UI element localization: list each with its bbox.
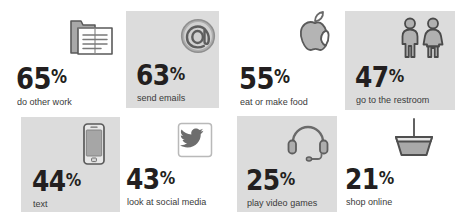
stat-cell-go-to-the-restroom: 47% go to the restroom	[345, 11, 455, 110]
stat-value: 47%	[355, 63, 404, 92]
stat-value: 43%	[126, 165, 175, 194]
stat-cell-eat-or-make-food: 55% eat or make food	[223, 8, 341, 110]
twitter-bird-icon	[174, 120, 216, 162]
stat-caption: eat or make food	[240, 97, 308, 107]
stat-caption: go to the restroom	[356, 95, 429, 105]
folder-document-icon	[68, 16, 118, 58]
infographic-stats-grid: 65% do other work 63% send emails	[0, 0, 460, 223]
stat-cell-look-at-social-media: 43% look at social media	[126, 117, 232, 212]
stat-value: 65%	[16, 64, 66, 94]
restroom-people-icon	[395, 16, 449, 62]
stat-caption: send emails	[137, 93, 185, 103]
stat-value: 55%	[239, 64, 289, 94]
smartphone-icon	[76, 121, 110, 169]
stat-cell-text: 44% text	[21, 117, 120, 212]
stat-caption: do other work	[17, 97, 72, 107]
stat-cell-do-other-work: 65% do other work	[0, 8, 122, 110]
apple-icon	[291, 10, 337, 58]
shopping-basket-icon	[389, 117, 439, 163]
stat-value: 63%	[136, 61, 185, 90]
stat-value: 25%	[246, 166, 295, 195]
headset-icon	[284, 121, 332, 165]
stat-cell-send-emails: 63% send emails	[126, 11, 219, 108]
stat-caption: look at social media	[127, 197, 206, 207]
stat-caption: text	[33, 199, 48, 209]
stat-caption: play video games	[247, 198, 317, 208]
at-sign-icon	[178, 16, 218, 58]
stat-value: 21%	[345, 165, 394, 194]
stat-cell-play-video-games: 25% play video games	[237, 116, 337, 212]
stat-caption: shop online	[346, 197, 392, 207]
stat-value: 44%	[32, 167, 81, 196]
stat-cell-shop-online: 21% shop online	[345, 117, 450, 212]
